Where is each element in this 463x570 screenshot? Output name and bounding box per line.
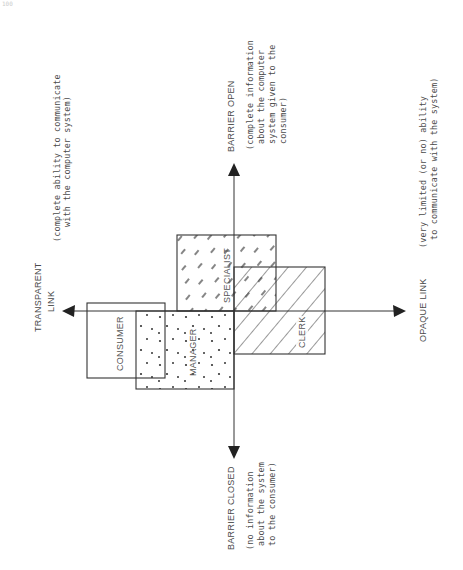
barrier-closed-description-line1: (no information xyxy=(245,471,255,550)
opaque-link-description-line2: to communicate with the system) xyxy=(429,77,439,240)
transparent-link-description-line2: with the computer system) xyxy=(62,96,72,227)
barrier-closed-title: BARRIER CLOSED xyxy=(226,466,236,550)
barrier-open-description-line3: system given to the xyxy=(267,44,277,144)
arrow-left-icon xyxy=(62,305,75,317)
barrier-open-description-line1: (complete information xyxy=(245,40,255,150)
barrier-closed-description-line3: to the consumer) xyxy=(267,462,277,546)
arrow-up-icon xyxy=(228,163,240,176)
barrier-open-description-line2: about the computer xyxy=(256,50,266,144)
transparent-link-title-line1: TRANSPARENT xyxy=(33,262,43,332)
manager-label: MANAGER xyxy=(188,328,198,376)
barrier-closed-description-line2: about the system xyxy=(256,462,266,546)
manager-region: MANAGER xyxy=(136,311,234,389)
opaque-link-description-line1: (very limited (or no) ability xyxy=(418,96,428,248)
barrier-open-description-line4: consumer) xyxy=(278,97,288,144)
clerk-label: CLERK xyxy=(297,316,307,348)
specialist-label: SPECIALIST xyxy=(222,248,232,303)
transparent-link-description-line1: (complete ability to communicate xyxy=(52,74,62,242)
transparent-link-title-line2: LINK xyxy=(46,291,56,312)
arrow-right-icon xyxy=(393,305,406,317)
opaque-link-title: OPAQUE LINK xyxy=(418,278,428,342)
arrow-down-icon xyxy=(228,446,240,459)
barrier-open-title: BARRIER OPEN xyxy=(226,80,236,152)
consumer-label: CONSUMER xyxy=(115,316,125,371)
